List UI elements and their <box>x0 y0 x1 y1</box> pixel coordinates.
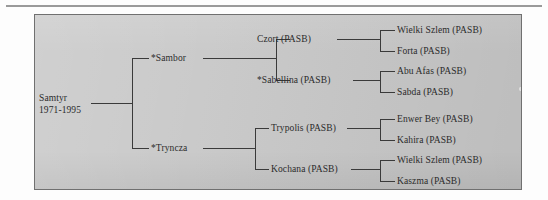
connector-gen4-arm-forta <box>380 51 395 52</box>
page-canvas: Samtyr 1971-1995 *Sambor *Tryncza Czort … <box>0 0 548 200</box>
node-gen3-trypolis: Trypolis (PASB) <box>271 123 336 134</box>
connector-gen3-bracket-sambor <box>276 39 277 80</box>
root-name: Samtyr <box>39 92 81 104</box>
connector-gen4-arm-enwer-bey <box>380 119 395 120</box>
node-gen2-sambor: *Sambor <box>151 53 186 64</box>
connector-gen2-bracket <box>132 58 133 148</box>
connector-gen4-arm-kahira <box>380 140 395 141</box>
connector-gen2-arm-tryncza <box>132 148 149 149</box>
connector-trypolis-stem <box>347 128 380 129</box>
connector-gen4-arm-abu-afas <box>380 71 395 72</box>
connector-kochana-stem <box>351 169 380 170</box>
node-gen2-tryncza: *Tryncza <box>151 143 187 154</box>
pedigree-figure-panel: Samtyr 1971-1995 *Sambor *Tryncza Czort … <box>34 14 522 190</box>
connector-gen4-arm-wielki-szlem-2 <box>380 160 395 161</box>
connector-gen4-arm-wielki-szlem-1 <box>380 30 395 31</box>
node-root: Samtyr 1971-1995 <box>39 92 81 116</box>
node-gen3-kochana: Kochana (PASB) <box>271 164 338 175</box>
node-gen4-kahira: Kahira (PASB) <box>397 135 456 146</box>
connector-gen4-bracket-sabellina <box>380 71 381 92</box>
connector-gen4-bracket-kochana <box>380 160 381 181</box>
connector-sambor-stem <box>203 58 276 59</box>
connector-gen4-arm-sabda <box>380 92 395 93</box>
connector-czort-stem <box>337 39 380 40</box>
connector-gen3-arm-trypolis <box>255 128 269 129</box>
connector-root-stem <box>91 103 132 104</box>
connector-gen3-arm-kochana <box>255 169 269 170</box>
connector-gen4-bracket-trypolis <box>380 119 381 140</box>
node-gen4-wielki-szlem-2: Wielki Szlem (PASB) <box>397 155 482 166</box>
node-gen4-abu-afas: Abu Afas (PASB) <box>397 66 466 77</box>
node-gen3-sabellina: *Sabellina (PASB) <box>257 75 330 86</box>
root-years: 1971-1995 <box>39 104 81 116</box>
node-gen3-czort: Czort (PASB) <box>257 34 311 45</box>
connector-tryncza-stem <box>203 148 255 149</box>
node-gen4-sabda: Sabda (PASB) <box>397 87 453 98</box>
node-gen4-kaszma: Kaszma (PASB) <box>397 176 461 187</box>
node-gen4-forta: Forta (PASB) <box>397 46 450 57</box>
connector-gen4-bracket-czort <box>380 30 381 51</box>
top-horizontal-rule <box>6 5 542 7</box>
connector-sabellina-stem <box>353 80 380 81</box>
scan-speck <box>519 87 522 91</box>
node-gen4-wielki-szlem-1: Wielki Szlem (PASB) <box>397 25 482 36</box>
connector-gen4-arm-kaszma <box>380 181 395 182</box>
connector-gen2-arm-sambor <box>132 58 149 59</box>
connector-gen3-bracket-tryncza <box>255 128 256 169</box>
node-gen4-enwer-bey: Enwer Bey (PASB) <box>397 114 473 125</box>
